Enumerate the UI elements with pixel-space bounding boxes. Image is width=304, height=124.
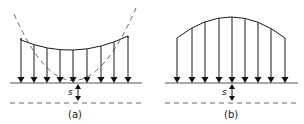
panel-a-settlement-label: s bbox=[68, 87, 73, 97]
panel-b-pressure-arrows bbox=[174, 17, 289, 83]
panel-b: s (b) bbox=[165, 17, 298, 120]
panel-a-caption: (a) bbox=[68, 109, 82, 120]
panel-b-arrow bbox=[282, 46, 289, 83]
panel-b-arrow bbox=[189, 28, 196, 83]
panel-b-arrow bbox=[174, 46, 181, 83]
panel-a-arrow bbox=[31, 45, 38, 83]
panel-a: s (a) bbox=[10, 8, 142, 120]
panel-a-arrow bbox=[57, 50, 64, 83]
panel-a-arrow bbox=[98, 46, 105, 83]
panel-b-arrow bbox=[229, 17, 236, 83]
panel-a-pressure-profile bbox=[21, 36, 128, 50]
panel-a-arrow bbox=[111, 42, 118, 83]
panel-a-arrow bbox=[44, 48, 51, 83]
panel-a-arrow bbox=[70, 50, 77, 83]
panel-a-settlement-arrow bbox=[75, 84, 81, 101]
panel-b-arrow bbox=[268, 29, 275, 83]
panel-b-arrow bbox=[255, 22, 262, 83]
panel-a-pressure-arrows bbox=[18, 36, 132, 83]
panel-b-arrow bbox=[202, 22, 209, 83]
panel-b-pressure-profile bbox=[177, 17, 285, 46]
panel-a-arrow bbox=[125, 36, 132, 83]
panel-b-arrow bbox=[216, 18, 223, 83]
panel-b-caption: (b) bbox=[224, 109, 238, 120]
contact-pressure-diagram: s (a) s (b) bbox=[0, 0, 304, 124]
panel-a-arrow bbox=[18, 38, 25, 83]
panel-b-arrow bbox=[242, 18, 249, 83]
panel-b-settlement-label: s bbox=[222, 87, 227, 97]
panel-a-arrow bbox=[84, 49, 91, 83]
panel-b-settlement-arrow bbox=[229, 84, 235, 101]
